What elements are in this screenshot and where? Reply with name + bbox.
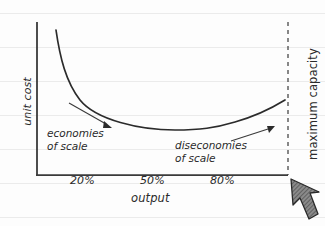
diseconomies-line-1: diseconomies	[175, 139, 247, 151]
mouse-pointer-icon	[291, 179, 319, 219]
diseconomies-of-scale-annotation: diseconomies of scale	[175, 139, 247, 164]
economies-arrow-head	[103, 121, 112, 128]
economies-line-2: of scale	[47, 140, 104, 153]
x-tick-20: 20%	[70, 174, 95, 187]
diseconomies-arrow-head	[267, 126, 275, 133]
economies-of-scale-annotation: economies of scale	[47, 127, 104, 152]
diseconomies-line-2: of scale	[175, 152, 247, 165]
y-axis-label: unit cost	[21, 67, 34, 137]
x-tick-80: 80%	[210, 174, 235, 187]
economies-arrow-shaft	[69, 103, 106, 124]
figure-canvas: unit cost maximum capacity 20% 50% 80% o…	[0, 0, 325, 226]
maximum-capacity-label: maximum capacity	[306, 44, 320, 164]
economies-line-1: economies	[47, 127, 104, 139]
x-tick-50: 50%	[140, 174, 165, 187]
x-axis-label: output	[131, 191, 170, 205]
